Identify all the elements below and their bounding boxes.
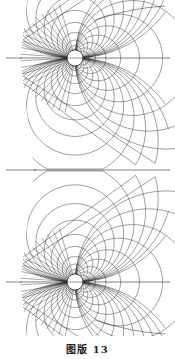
streamline bbox=[22, 282, 169, 336]
streamline bbox=[22, 12, 165, 58]
streamline bbox=[22, 58, 134, 169]
plate-caption: 图版 13 bbox=[0, 341, 175, 356]
outer-streamline bbox=[95, 6, 165, 20]
bottom-cylinder-flow-net bbox=[20, 171, 175, 336]
streamline bbox=[22, 282, 165, 328]
top-cylinder-flow-net bbox=[20, 0, 175, 169]
streamline bbox=[23, 282, 158, 336]
streamline bbox=[22, 58, 146, 165]
radial-grid-line bbox=[25, 35, 67, 55]
left-boundary-mask bbox=[0, 0, 34, 336]
outer-streamline bbox=[95, 320, 165, 334]
flow-net-diagram bbox=[0, 0, 175, 336]
streamline bbox=[36, 204, 114, 282]
streamline bbox=[22, 236, 165, 282]
radial-grid-line bbox=[25, 259, 67, 279]
equipotential-line bbox=[75, 0, 175, 149]
streamline bbox=[22, 0, 169, 58]
equipotential-line bbox=[75, 209, 175, 336]
streamline bbox=[26, 58, 123, 155]
streamline bbox=[26, 185, 123, 282]
streamline bbox=[22, 58, 165, 104]
streamline bbox=[36, 58, 114, 136]
